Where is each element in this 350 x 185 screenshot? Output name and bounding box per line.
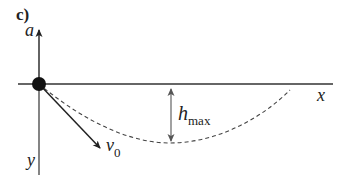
projectile-diagram: c) a y x v0 hmax — [0, 0, 350, 185]
max-height-symbol: h — [178, 102, 188, 124]
diagram-canvas — [0, 0, 350, 185]
vertical-up-label: a — [25, 21, 34, 39]
initial-velocity-arrow — [39, 84, 100, 148]
max-height-subscript: max — [188, 113, 210, 128]
trajectory-curve — [39, 84, 290, 143]
vertical-down-label: y — [27, 151, 35, 169]
initial-velocity-label: v0 — [106, 136, 121, 154]
max-height-label: hmax — [178, 103, 210, 123]
initial-velocity-subscript: 0 — [114, 145, 121, 160]
initial-velocity-symbol: v — [106, 135, 114, 155]
launch-point — [32, 77, 46, 91]
horizontal-label: x — [317, 86, 325, 104]
